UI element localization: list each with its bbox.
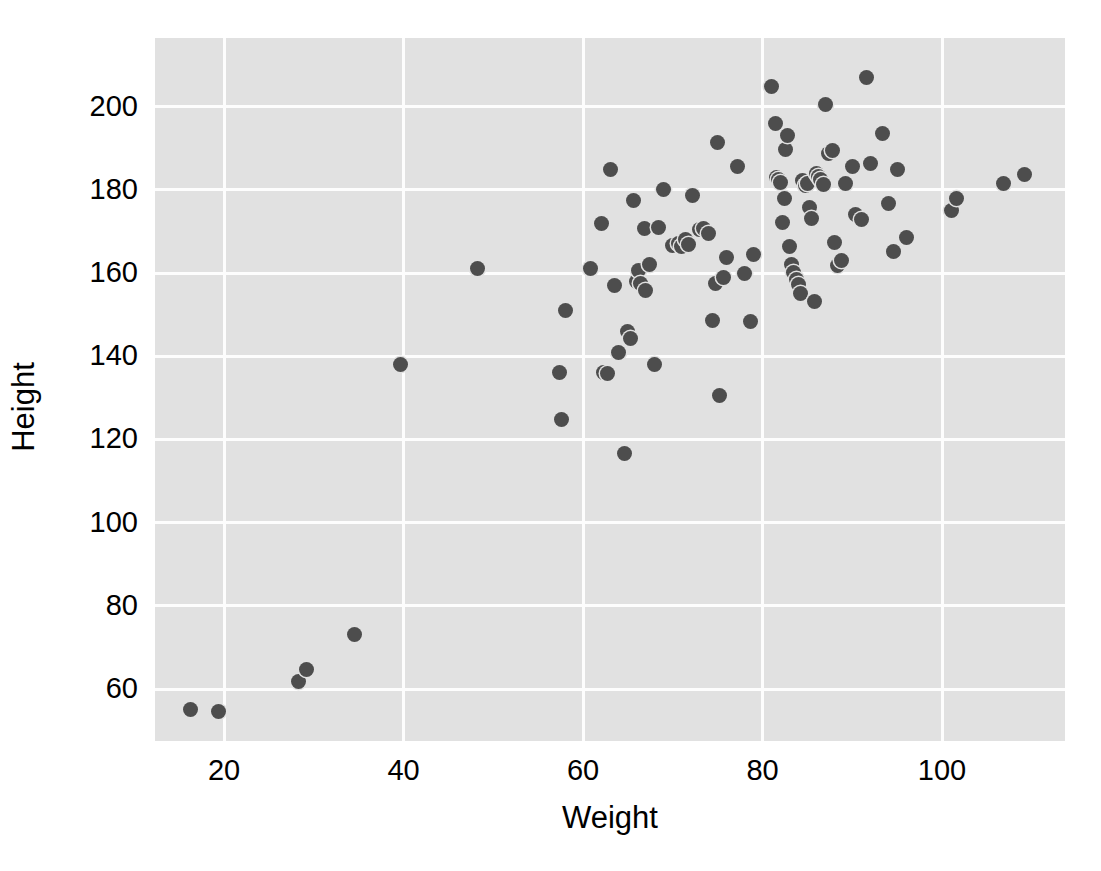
data-point: [681, 237, 696, 252]
data-point: [949, 191, 964, 206]
data-point: [854, 212, 869, 227]
y-tick-label: 120: [90, 424, 138, 453]
data-point: [558, 303, 573, 318]
data-point: [875, 126, 890, 141]
data-point: [626, 193, 641, 208]
data-point: [996, 176, 1011, 191]
data-point: [347, 627, 362, 642]
data-point: [617, 446, 632, 461]
data-point: [638, 283, 653, 298]
x-tick-label: 80: [746, 756, 778, 785]
data-point: [719, 250, 734, 265]
data-point: [637, 221, 652, 236]
y-axis-tick-labels: 6080100120140160180200: [60, 0, 138, 871]
data-point: [470, 261, 485, 276]
data-point: [712, 388, 727, 403]
data-point: [890, 162, 905, 177]
data-point: [685, 188, 700, 203]
data-point: [393, 357, 408, 372]
data-point: [730, 159, 745, 174]
data-point: [603, 162, 618, 177]
data-point: [816, 177, 831, 192]
data-point: [611, 345, 626, 360]
data-point: [834, 253, 849, 268]
data-point: [899, 230, 914, 245]
data-point: [656, 182, 671, 197]
data-point: [807, 294, 822, 309]
data-point: [211, 704, 226, 719]
data-point: [299, 662, 314, 677]
data-point: [594, 216, 609, 231]
data-point: [838, 176, 853, 191]
y-tick-label: 140: [90, 341, 138, 370]
data-point: [710, 135, 725, 150]
data-point: [746, 247, 761, 262]
data-points-layer: [155, 38, 1065, 741]
data-point: [600, 366, 615, 381]
data-point: [183, 702, 198, 717]
y-tick-label: 60: [106, 674, 138, 703]
data-point: [818, 97, 833, 112]
scatter-plot-figure: 6080100120140160180200 20406080100 Heigh…: [0, 0, 1101, 871]
data-point: [782, 239, 797, 254]
data-point: [554, 412, 569, 427]
data-point: [651, 220, 666, 235]
data-point: [552, 365, 567, 380]
data-point: [764, 79, 779, 94]
data-point: [716, 270, 731, 285]
data-point: [583, 261, 598, 276]
data-point: [642, 257, 657, 272]
data-point: [845, 159, 860, 174]
data-point: [793, 286, 808, 301]
data-point: [780, 128, 795, 143]
x-tick-label: 60: [567, 756, 599, 785]
y-axis-title: Height: [6, 317, 42, 497]
data-point: [705, 313, 720, 328]
data-point: [607, 278, 622, 293]
y-tick-label: 200: [90, 92, 138, 121]
data-point: [768, 116, 783, 131]
plot-panel: [155, 38, 1065, 741]
x-tick-label: 100: [918, 756, 966, 785]
data-point: [804, 211, 819, 226]
y-tick-label: 160: [90, 258, 138, 287]
data-point: [1017, 167, 1032, 182]
y-tick-label: 100: [90, 508, 138, 537]
data-point: [827, 235, 842, 250]
data-point: [881, 196, 896, 211]
data-point: [777, 191, 792, 206]
data-point: [863, 156, 878, 171]
x-tick-label: 40: [387, 756, 419, 785]
data-point: [859, 70, 874, 85]
data-point: [623, 331, 638, 346]
data-point: [778, 142, 793, 157]
y-tick-label: 80: [106, 591, 138, 620]
data-point: [647, 357, 662, 372]
data-point: [773, 175, 788, 190]
data-point: [743, 314, 758, 329]
data-point: [737, 266, 752, 281]
data-point: [701, 226, 716, 241]
data-point: [825, 143, 840, 158]
data-point: [886, 244, 901, 259]
data-point: [775, 215, 790, 230]
x-axis-tick-labels: 20406080100: [0, 756, 1101, 796]
x-tick-label: 20: [208, 756, 240, 785]
y-tick-label: 180: [90, 175, 138, 204]
x-axis-title: Weight: [155, 800, 1065, 836]
